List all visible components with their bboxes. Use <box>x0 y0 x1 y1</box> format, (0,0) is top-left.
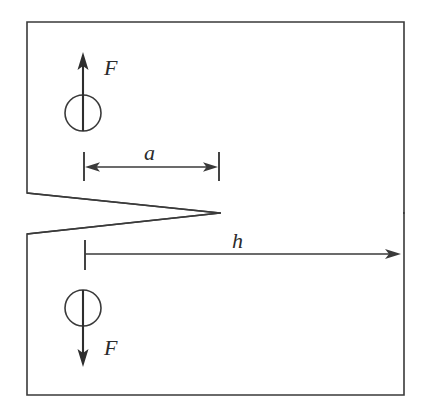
total-length-label: h <box>232 228 243 253</box>
crack-length-label: a <box>144 140 155 165</box>
notch-lower-face <box>27 213 220 234</box>
force-bottom-label: F <box>103 335 118 360</box>
fracture-specimen-figure: F F a h <box>0 0 429 413</box>
notch-upper-face <box>27 193 220 213</box>
force-top-label: F <box>103 55 118 80</box>
diagram-canvas: F F a h <box>0 0 429 413</box>
